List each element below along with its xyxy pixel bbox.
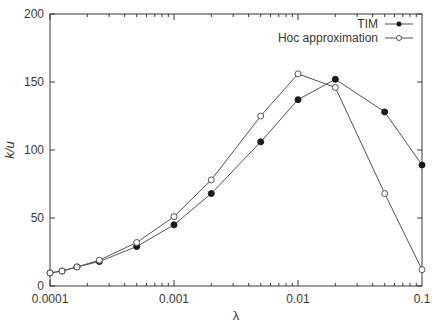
open-circle-marker bbox=[59, 268, 65, 274]
open-circle-marker bbox=[74, 264, 80, 270]
filled-circle-marker bbox=[295, 97, 301, 103]
y-tick-label: 200 bbox=[24, 7, 44, 21]
open-circle-marker bbox=[134, 239, 140, 245]
x-axis-label: λ bbox=[233, 308, 240, 323]
legend-open-circle-icon bbox=[397, 36, 402, 41]
series-line-tim bbox=[50, 79, 422, 273]
open-circle-marker bbox=[382, 191, 388, 197]
legend-filled-circle-icon bbox=[397, 22, 402, 27]
y-tick-label: 50 bbox=[31, 211, 45, 225]
chart-container: 0501001502000.00010.0010.010.1 TIMHoc ap… bbox=[0, 0, 434, 326]
legend: TIMHoc approximation bbox=[278, 17, 413, 45]
filled-circle-marker bbox=[258, 139, 264, 145]
x-tick-label: 0.01 bbox=[286, 292, 310, 306]
series-lines bbox=[50, 74, 422, 273]
filled-circle-marker bbox=[419, 162, 425, 168]
filled-circle-marker bbox=[382, 109, 388, 115]
open-circle-marker bbox=[295, 71, 301, 77]
open-circle-marker bbox=[208, 177, 214, 183]
series-line-hoc-approximation bbox=[50, 74, 422, 273]
open-circle-marker bbox=[332, 84, 338, 90]
filled-circle-marker bbox=[171, 222, 177, 228]
plot-frame bbox=[50, 14, 422, 286]
open-circle-marker bbox=[47, 270, 53, 276]
x-tick-label: 0.1 bbox=[414, 292, 431, 306]
open-circle-marker bbox=[258, 113, 264, 119]
legend-label: Hoc approximation bbox=[278, 31, 378, 45]
plot-border bbox=[50, 14, 422, 286]
legend-label: TIM bbox=[357, 17, 378, 31]
y-axis-label: k/u bbox=[2, 141, 17, 158]
filled-circle-marker bbox=[332, 76, 338, 82]
y-tick-label: 0 bbox=[37, 279, 44, 293]
axis-ticks bbox=[50, 14, 422, 286]
y-tick-label: 150 bbox=[24, 75, 44, 89]
filled-circle-marker bbox=[208, 191, 214, 197]
open-circle-marker bbox=[419, 267, 425, 273]
line-chart: 0501001502000.00010.0010.010.1 TIMHoc ap… bbox=[0, 0, 434, 326]
open-circle-marker bbox=[96, 257, 102, 263]
axis-tick-labels: 0501001502000.00010.0010.010.1 bbox=[24, 7, 431, 306]
x-tick-label: 0.001 bbox=[159, 292, 189, 306]
open-circle-marker bbox=[171, 214, 177, 220]
x-tick-label: 0.0001 bbox=[32, 292, 69, 306]
y-tick-label: 100 bbox=[24, 143, 44, 157]
